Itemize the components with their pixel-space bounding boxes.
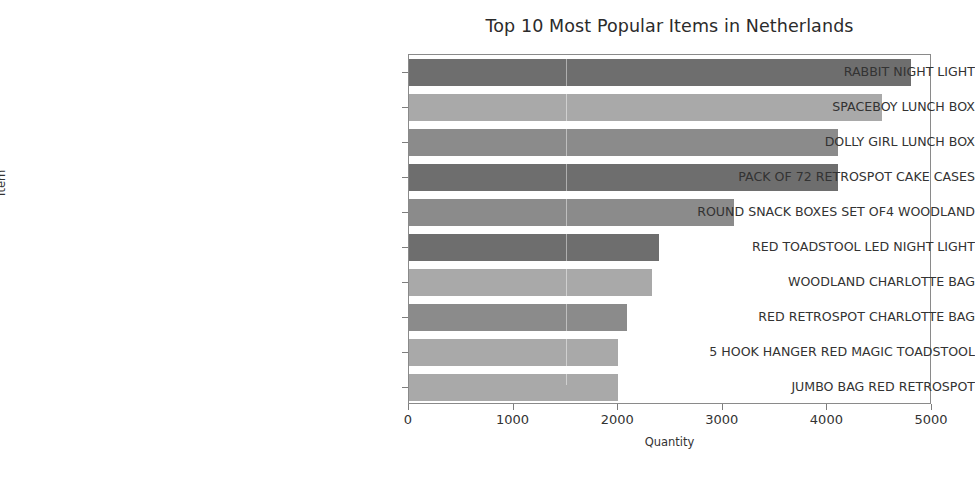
x-axis-tick-mark bbox=[931, 404, 932, 410]
y-axis-tick-label: WOODLAND CHARLOTTE BAG bbox=[580, 274, 975, 289]
y-axis-tick-mark bbox=[402, 107, 408, 108]
y-axis-tick-label: SPACEBOY LUNCH BOX bbox=[580, 99, 975, 114]
y-axis-tick-mark bbox=[402, 177, 408, 178]
y-axis-tick-mark bbox=[402, 387, 408, 388]
y-axis-tick-label: JUMBO BAG RED RETROSPOT bbox=[580, 379, 975, 394]
y-axis-tick-label: RED RETROSPOT CHARLOTTE BAG bbox=[580, 309, 975, 324]
y-axis-tick-label: RABBIT NIGHT LIGHT bbox=[580, 64, 975, 79]
chart-figure: Top 10 Most Popular Items in Netherlands… bbox=[0, 0, 975, 482]
y-axis-tick-label: ROUND SNACK BOXES SET OF4 WOODLAND bbox=[580, 204, 975, 219]
x-axis-tick-label: 1000 bbox=[483, 412, 543, 427]
y-axis-tick-label: 5 HOOK HANGER RED MAGIC TOADSTOOL bbox=[580, 344, 975, 359]
y-axis-tick-mark bbox=[402, 212, 408, 213]
x-axis-tick-mark bbox=[408, 404, 409, 410]
x-axis-tick-mark bbox=[826, 404, 827, 410]
x-axis-tick-label: 4000 bbox=[796, 412, 856, 427]
y-axis-tick-mark bbox=[402, 247, 408, 248]
y-axis-tick-mark bbox=[402, 352, 408, 353]
y-axis-tick-mark bbox=[402, 317, 408, 318]
y-axis-tick-mark bbox=[402, 142, 408, 143]
y-axis-tick-label: RED TOADSTOOL LED NIGHT LIGHT bbox=[580, 239, 975, 254]
x-axis-tick-label: 5000 bbox=[901, 412, 961, 427]
x-axis-tick-label: 0 bbox=[378, 412, 438, 427]
x-axis-tick-label: 3000 bbox=[692, 412, 752, 427]
x-axis-tick-mark bbox=[513, 404, 514, 410]
y-axis-tick-mark bbox=[402, 72, 408, 73]
y-axis-tick-label: PACK OF 72 RETROSPOT CAKE CASES bbox=[580, 169, 975, 184]
gridline-artifact bbox=[566, 55, 567, 385]
y-axis-label: Item bbox=[0, 170, 8, 196]
x-axis-tick-mark bbox=[722, 404, 723, 410]
x-axis-tick-label: 2000 bbox=[587, 412, 647, 427]
x-axis-label: Quantity bbox=[408, 435, 931, 449]
y-axis-tick-label: DOLLY GIRL LUNCH BOX bbox=[580, 134, 975, 149]
y-axis-tick-mark bbox=[402, 282, 408, 283]
x-axis-tick-mark bbox=[617, 404, 618, 410]
chart-title: Top 10 Most Popular Items in Netherlands bbox=[408, 16, 931, 36]
